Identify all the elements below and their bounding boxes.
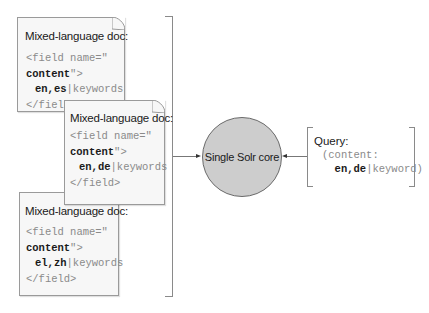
query-code: (content: en,de|keyword) <box>322 148 423 176</box>
doc-title: Mixed-language doc: <box>70 112 173 124</box>
doc-code: <field name=" content"> en,de|keywords <… <box>70 129 167 191</box>
doc-title: Mixed-language doc: <box>25 30 128 42</box>
document-card-1: Mixed-language doc: <field name=" conten… <box>17 17 125 112</box>
query-title: Query: <box>314 135 349 147</box>
folded-corner-icon <box>112 17 125 30</box>
document-card-2: Mixed-language doc: <field name=" conten… <box>64 100 165 205</box>
arrowhead-icon <box>196 154 201 158</box>
doc-title: Mixed-language doc: <box>25 205 128 217</box>
document-card-3: Mixed-language doc: <field name=" conten… <box>19 192 119 296</box>
solr-core-label: Single Solr core <box>205 151 279 163</box>
solr-core-node: Single Solr core <box>202 117 282 197</box>
arrowhead-icon <box>282 154 287 158</box>
doc-code: <field name=" content"> el,zh|keywords <… <box>26 225 123 287</box>
